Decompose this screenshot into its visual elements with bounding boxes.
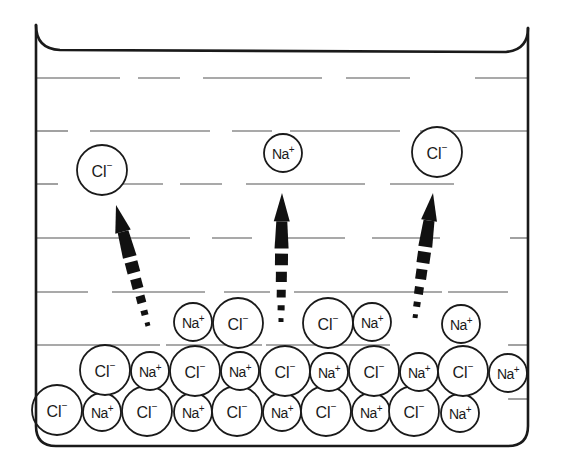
chloride-ion: Cl−	[412, 127, 462, 177]
arrow-dash	[416, 251, 430, 264]
chloride-ion: Cl−	[32, 385, 82, 435]
arrow-cl-left-icon	[115, 205, 150, 327]
arrow-dash	[125, 260, 140, 274]
sodium-ion: Na+	[353, 303, 391, 341]
sodium-ion: Na+	[441, 394, 479, 432]
arrow-dash	[136, 295, 147, 305]
chloride-ion: Cl−	[303, 298, 353, 348]
sodium-ion: Na+	[174, 393, 212, 431]
arrow-dash	[276, 272, 287, 282]
arrow-dash	[279, 318, 284, 322]
sodium-ion: Na+	[489, 354, 527, 392]
arrow-head	[421, 193, 437, 222]
diagram-canvas: Cl−Na+Cl−Na+Cl−Na+Cl−Na+Cl−Na+Cl−Na+Cl−N…	[0, 0, 561, 466]
arrow-dash	[414, 286, 424, 295]
sodium-ion: Na+	[83, 393, 121, 431]
chloride-ion: Cl−	[213, 298, 263, 348]
sodium-ion: Na+	[442, 305, 480, 343]
arrow-dash	[130, 277, 143, 289]
sodium-ion: Na+	[131, 352, 169, 390]
sodium-ion: Na+	[264, 134, 302, 172]
chloride-ion: Cl−	[260, 346, 310, 396]
arrow-dash	[145, 322, 151, 327]
arrow-cl-right-icon	[413, 193, 437, 318]
sodium-ion: Na+	[174, 303, 212, 341]
sodium-ion: Na+	[221, 352, 259, 390]
chloride-ion: Cl−	[349, 346, 399, 396]
sodium-ion: Na+	[400, 353, 438, 391]
chloride-ion: Cl−	[212, 386, 262, 436]
chloride-ion: Cl−	[170, 346, 220, 396]
crystal-middle-row: Cl−Na+Cl−Na+Cl−Na+Cl−Na+Cl−Na+	[80, 345, 527, 396]
nacl-dissolution-diagram: Cl−Na+Cl−Na+Cl−Na+Cl−Na+Cl−Na+Cl−Na+Cl−N…	[0, 0, 561, 466]
chloride-ion: Cl−	[389, 386, 439, 436]
arrow-shaft	[275, 221, 289, 248]
sodium-ion: Na+	[263, 393, 301, 431]
sodium-ion: Na+	[310, 353, 348, 391]
chloride-ion: Cl−	[438, 346, 488, 396]
chloride-ion: Cl−	[122, 386, 172, 436]
chloride-ion: Cl−	[80, 345, 130, 395]
dissolution-arrows	[115, 193, 437, 327]
arrow-shaft	[418, 220, 434, 248]
arrow-dash	[278, 305, 285, 310]
chloride-ion: Cl−	[301, 386, 351, 436]
crystal-top-row: Na+Cl−Cl−Na+Na+	[174, 298, 480, 348]
arrow-dash	[140, 309, 148, 316]
arrow-dash	[275, 254, 288, 266]
arrow-head	[115, 205, 130, 234]
arrow-shaft	[118, 230, 137, 259]
arrow-dash	[413, 314, 418, 318]
dissolved: Cl−Na+Cl−	[77, 127, 462, 195]
beaker-rim	[36, 25, 528, 52]
sodium-ion: Na+	[352, 393, 390, 431]
arrow-na-center-icon	[274, 193, 290, 322]
arrow-head	[274, 193, 290, 221]
arrow-dash	[415, 268, 427, 280]
arrow-dash	[413, 301, 421, 307]
arrow-dash	[277, 290, 286, 298]
chloride-ion: Cl−	[77, 145, 127, 195]
